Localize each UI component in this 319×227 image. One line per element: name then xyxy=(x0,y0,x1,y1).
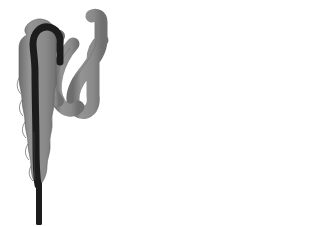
figure-root: Everting organ expansion sequence xyxy=(0,0,319,227)
basal-stem xyxy=(36,182,42,225)
diagram-canvas xyxy=(0,0,319,227)
